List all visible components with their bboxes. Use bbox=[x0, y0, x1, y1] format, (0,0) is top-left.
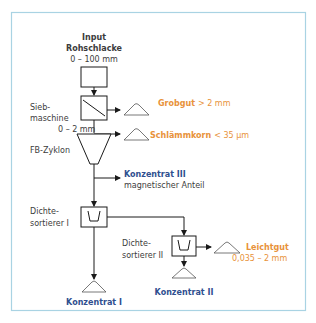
svg-text:Schlämmkorn< 35 µm: Schlämmkorn< 35 µm bbox=[150, 131, 249, 140]
schlaemmkorn-value: < 35 µm bbox=[214, 131, 249, 140]
ds1-label-2: sortierer I bbox=[30, 219, 69, 228]
grobgut-label: Grobgut bbox=[158, 99, 195, 108]
diagram-frame bbox=[12, 13, 306, 311]
input-title: Input bbox=[82, 33, 106, 42]
konzentrat1-label: Konzentrat I bbox=[66, 298, 122, 307]
svg-text:Grobgut> 2 mm: Grobgut> 2 mm bbox=[158, 99, 231, 108]
konzentrat2-label: Konzentrat II bbox=[155, 288, 214, 297]
ds1-label-1: Dichte- bbox=[30, 207, 59, 216]
input-range: 0 – 100 mm bbox=[70, 55, 118, 64]
schlaemmkorn-label: Schlämmkorn bbox=[150, 131, 212, 140]
konzentrat3-subtitle: magnetischer Anteil bbox=[124, 181, 205, 190]
leichtgut-label: Leichtgut bbox=[246, 243, 289, 252]
input-hopper-box bbox=[81, 67, 107, 87]
siebmaschine-label-2: maschine bbox=[30, 114, 69, 123]
dichtesortierer1-box bbox=[81, 207, 107, 227]
ds2-label-1: Dichte- bbox=[122, 239, 151, 248]
leichtgut-value: 0,035 – 2 mm bbox=[232, 254, 287, 263]
grobgut-value: > 2 mm bbox=[198, 99, 231, 108]
konzentrat3-title: Konzentrat III bbox=[124, 170, 186, 179]
process-flow-diagram: Input Rohschlacke 0 – 100 mm Sieb- masch… bbox=[0, 0, 316, 323]
input-material: Rohschlacke bbox=[66, 44, 123, 53]
dichtesortierer2-box bbox=[172, 236, 196, 256]
siebmaschine-label-1: Sieb- bbox=[30, 103, 50, 112]
zyklon-label: FB-Zyklon bbox=[30, 146, 70, 155]
ds2-label-2: sortierer II bbox=[122, 251, 163, 260]
sieb-output-range: 0 – 2 mm bbox=[58, 125, 96, 134]
